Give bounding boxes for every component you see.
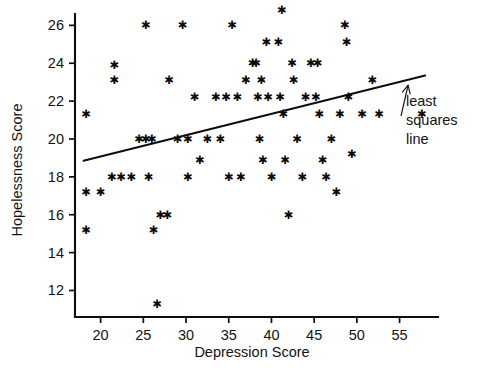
x-tick-label-20: 20 xyxy=(93,327,109,343)
scatter-point: ✱ xyxy=(287,56,297,70)
y-tick-label-12: 12 xyxy=(48,282,64,298)
x-tick-label-55: 55 xyxy=(391,327,407,343)
scatter-point: ✱ xyxy=(347,147,357,161)
scatter-point: ✱ xyxy=(280,153,290,167)
y-tick-label-16: 16 xyxy=(48,207,64,223)
scatter-point: ✱ xyxy=(255,132,265,146)
y-tick-label-24: 24 xyxy=(48,55,64,71)
scatter-point: ✱ xyxy=(326,132,336,146)
scatter-points-group: ✱✱✱✱✱✱✱✱✱✱✱✱✱✱✱✱✱✱✱✱✱✱✱✱✱✱✱✱✱✱✱✱✱✱✱✱✱✱✱✱… xyxy=(81,3,426,311)
scatter-point: ✱ xyxy=(81,107,91,121)
scatter-point: ✱ xyxy=(241,73,251,87)
scatter-point: ✱ xyxy=(221,90,231,104)
scatter-point: ✱ xyxy=(127,170,137,184)
scatter-point: ✱ xyxy=(253,90,263,104)
scatter-point: ✱ xyxy=(301,90,311,104)
x-axis-title: Depression Score xyxy=(194,344,309,360)
scatter-point: ✱ xyxy=(183,170,193,184)
x-tick-label-40: 40 xyxy=(263,327,279,343)
y-axis-tick-labels: 1214161820222426 xyxy=(48,17,64,298)
scatter-point: ✱ xyxy=(261,35,271,49)
scatter-point: ✱ xyxy=(267,170,277,184)
scatter-point: ✱ xyxy=(141,18,151,32)
scatter-point: ✱ xyxy=(152,297,162,311)
scatter-point: ✱ xyxy=(224,170,234,184)
scatter-point: ✱ xyxy=(116,170,126,184)
scatter-point: ✱ xyxy=(190,90,200,104)
scatter-point: ✱ xyxy=(314,107,324,121)
scatter-point: ✱ xyxy=(203,132,213,146)
x-tick-label-35: 35 xyxy=(221,327,237,343)
scatter-point: ✱ xyxy=(227,18,237,32)
scatter-point: ✱ xyxy=(178,18,188,32)
scatter-point: ✱ xyxy=(340,18,350,32)
scatter-point: ✱ xyxy=(96,185,106,199)
y-tick-label-20: 20 xyxy=(48,131,64,147)
scatter-point: ✱ xyxy=(107,170,117,184)
y-axis-title: Hopelessness Score xyxy=(9,104,25,237)
scatter-point: ✱ xyxy=(263,90,273,104)
scatter-point: ✱ xyxy=(343,90,353,104)
scatter-point: ✱ xyxy=(251,56,261,70)
scatter-point: ✱ xyxy=(342,35,352,49)
y-tick-label-22: 22 xyxy=(48,93,64,109)
scatter-point: ✱ xyxy=(357,107,367,121)
scatter-point: ✱ xyxy=(335,107,345,121)
scatter-point: ✱ xyxy=(232,90,242,104)
scatter-point: ✱ xyxy=(313,56,323,70)
y-tick-label-18: 18 xyxy=(48,169,64,185)
x-tick-label-50: 50 xyxy=(349,327,365,343)
scatter-point: ✱ xyxy=(273,35,283,49)
y-tick-label-26: 26 xyxy=(48,17,64,33)
scatter-point: ✱ xyxy=(149,223,159,237)
scatter-point: ✱ xyxy=(275,90,285,104)
x-axis-tick-labels: 2025303540455055 xyxy=(93,327,408,343)
x-tick-label-25: 25 xyxy=(135,327,151,343)
annotation-line-1: least xyxy=(406,93,437,109)
scatter-point: ✱ xyxy=(321,170,331,184)
scatter-plot-figure: 1214161820222426 2025303540455055 ✱✱✱✱✱✱… xyxy=(0,0,479,374)
annotation-line-3: line xyxy=(406,131,429,147)
x-tick-label-45: 45 xyxy=(306,327,322,343)
scatter-point: ✱ xyxy=(162,208,172,222)
scatter-point: ✱ xyxy=(277,3,287,17)
x-tick-label-30: 30 xyxy=(178,327,194,343)
plot-canvas: 1214161820222426 2025303540455055 ✱✱✱✱✱✱… xyxy=(0,0,479,374)
scatter-point: ✱ xyxy=(144,170,154,184)
scatter-point: ✱ xyxy=(109,58,119,72)
scatter-point: ✱ xyxy=(215,132,225,146)
scatter-point: ✱ xyxy=(81,185,91,199)
scatter-point: ✱ xyxy=(367,73,377,87)
scatter-point: ✱ xyxy=(256,73,266,87)
scatter-point: ✱ xyxy=(284,208,294,222)
scatter-point: ✱ xyxy=(211,90,221,104)
scatter-point: ✱ xyxy=(374,107,384,121)
scatter-point: ✱ xyxy=(332,185,342,199)
scatter-point: ✱ xyxy=(164,73,174,87)
y-tick-label-14: 14 xyxy=(48,245,64,261)
scatter-point: ✱ xyxy=(258,153,268,167)
scatter-point: ✱ xyxy=(109,73,119,87)
scatter-point: ✱ xyxy=(318,153,328,167)
scatter-point: ✱ xyxy=(289,73,299,87)
scatter-point: ✱ xyxy=(195,153,205,167)
scatter-point: ✱ xyxy=(81,223,91,237)
scatter-point: ✱ xyxy=(236,170,246,184)
scatter-point: ✱ xyxy=(297,170,307,184)
scatter-point: ✱ xyxy=(292,132,302,146)
annotation-line-2: squares xyxy=(406,112,458,128)
